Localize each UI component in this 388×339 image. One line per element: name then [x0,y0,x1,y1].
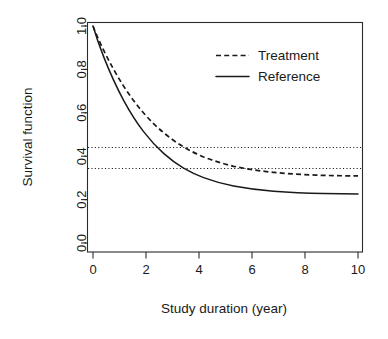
y-tick-label-4: 0.8 [74,60,89,78]
legend-label-reference: Reference [258,69,320,84]
chart-background [0,0,388,339]
x-axis-title: Study duration (year) [161,301,287,316]
x-tick-label-0: 0 [89,262,96,277]
survival-function-chart: 0.0 0.2 0.4 0.6 0.8 1.0 0 2 4 6 8 10 Stu… [0,0,388,339]
x-tick-label-1: 2 [142,262,149,277]
x-tick-label-3: 6 [248,262,255,277]
y-tick-label-0: 0.0 [74,234,89,252]
legend-label-treatment: Treatment [258,48,319,63]
y-tick-label-2: 0.4 [74,147,89,165]
chart-canvas: 0.0 0.2 0.4 0.6 0.8 1.0 0 2 4 6 8 10 Stu… [0,0,388,339]
y-tick-label-1: 0.2 [74,191,89,209]
x-tick-label-4: 8 [301,262,308,277]
y-tick-label-5: 1.0 [74,17,89,35]
y-axis-title: Survival function [20,87,35,186]
x-tick-label-2: 4 [195,262,202,277]
y-tick-label-3: 0.6 [74,104,89,122]
x-tick-label-5: 10 [351,262,365,277]
